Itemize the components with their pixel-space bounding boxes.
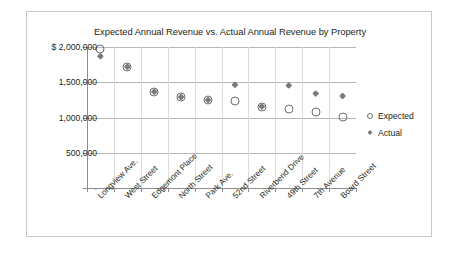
chart-title: Expected Annual Revenue vs. Actual Annua… bbox=[27, 26, 433, 37]
data-point-expected[interactable] bbox=[230, 97, 239, 106]
gridline-vertical bbox=[329, 47, 330, 188]
x-axis-tick bbox=[195, 188, 196, 192]
chart-legend: Expected Actual bbox=[365, 107, 429, 141]
gridline-vertical bbox=[141, 47, 142, 188]
x-axis-tick bbox=[87, 188, 88, 192]
data-point-actual[interactable] bbox=[339, 92, 346, 99]
gridline-vertical bbox=[302, 47, 303, 188]
data-point-actual[interactable] bbox=[312, 90, 319, 97]
legend-label-expected: Expected bbox=[378, 111, 414, 121]
x-axis-tick bbox=[114, 188, 115, 192]
y-axis-tick-label: - bbox=[94, 184, 97, 193]
data-point-expected[interactable] bbox=[204, 95, 213, 104]
data-point-expected[interactable] bbox=[338, 113, 347, 122]
data-point-expected[interactable] bbox=[96, 45, 105, 54]
x-axis-tick bbox=[222, 188, 223, 192]
data-point-actual[interactable] bbox=[97, 53, 104, 60]
y-axis-tick-label: $ 2,000,000 bbox=[52, 42, 97, 52]
x-axis-tick bbox=[275, 188, 276, 192]
y-axis-tick-label: 1,000,000 bbox=[59, 113, 97, 123]
data-point-expected[interactable] bbox=[177, 93, 186, 102]
gridline-vertical bbox=[222, 47, 223, 188]
x-axis-tick bbox=[168, 188, 169, 192]
data-point-actual[interactable] bbox=[231, 81, 238, 88]
data-point-expected[interactable] bbox=[284, 105, 293, 114]
open-circle-icon bbox=[365, 113, 375, 119]
legend-label-actual: Actual bbox=[378, 128, 402, 138]
gridline-vertical bbox=[195, 47, 196, 188]
y-axis-tick-label: 500,000 bbox=[66, 148, 97, 158]
chart-container: Expected Annual Revenue vs. Actual Annua… bbox=[26, 11, 432, 237]
data-point-expected[interactable] bbox=[257, 102, 266, 111]
data-point-actual[interactable] bbox=[285, 82, 292, 89]
x-axis-tick bbox=[141, 188, 142, 192]
data-point-expected[interactable] bbox=[150, 87, 159, 96]
gridline-vertical bbox=[114, 47, 115, 188]
x-axis-tick bbox=[356, 188, 357, 192]
y-axis-tick-label: 1,500,000 bbox=[59, 77, 97, 87]
data-point-expected[interactable] bbox=[311, 107, 320, 116]
gridline-vertical bbox=[168, 47, 169, 188]
gridline-vertical bbox=[248, 47, 249, 188]
data-point-expected[interactable] bbox=[123, 62, 132, 71]
legend-item-expected[interactable]: Expected bbox=[365, 107, 429, 124]
legend-item-actual[interactable]: Actual bbox=[365, 124, 429, 141]
filled-diamond-icon bbox=[365, 130, 375, 135]
x-axis-tick bbox=[329, 188, 330, 192]
gridline-vertical bbox=[275, 47, 276, 188]
x-axis-tick bbox=[248, 188, 249, 192]
x-axis-tick bbox=[302, 188, 303, 192]
